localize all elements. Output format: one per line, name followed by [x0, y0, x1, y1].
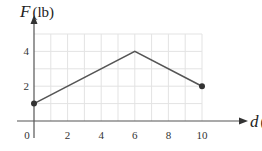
x-tick-label: 10: [197, 129, 209, 141]
y-axis-label: F(lb): [19, 2, 54, 21]
x-tick-label: 8: [166, 129, 172, 141]
endpoint-dot-icon: [31, 101, 37, 107]
x-tick-label: 4: [98, 129, 104, 141]
x-axis-label: d(ft): [250, 112, 262, 131]
endpoint-dot-icon: [199, 83, 205, 89]
x-tick-label: 2: [65, 129, 71, 141]
x-tick-label: 0: [24, 129, 30, 141]
grid: [34, 34, 202, 121]
force-distance-chart: 024681024 F(lb) d(ft): [0, 0, 262, 151]
x-axis-arrow-icon: [239, 118, 248, 125]
x-tick-label: 6: [132, 129, 138, 141]
y-tick-label: 2: [24, 80, 30, 92]
axes: [17, 15, 248, 138]
y-tick-label: 4: [24, 45, 30, 57]
